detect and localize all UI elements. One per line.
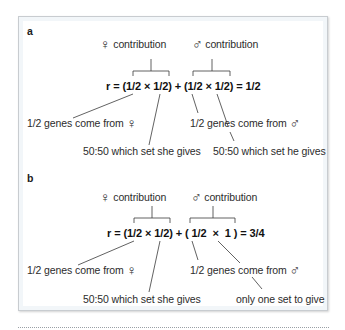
panel-b-female-genes: 1/2 genes come from ♀ [27, 264, 137, 276]
panel-a-female-genes: 1/2 genes come from ♀ [27, 117, 137, 129]
male-symbol-icon: ♂ [191, 189, 201, 205]
panel-b-male-genes: 1/2 genes come from ♂ [190, 264, 300, 276]
panel-b-male-set: only one set to give [236, 293, 324, 305]
female-genes-label: 1/2 genes come from [27, 264, 124, 276]
panel-b-female-set: 50:50 which set she gives [83, 293, 201, 305]
female-contribution-label: contribution [113, 38, 166, 50]
panel-a-male-set: 50:50 which set he gives [213, 145, 326, 157]
panel-a-female-contribution: ♀ contribution [100, 38, 166, 50]
panel-a-female-set: 50:50 which set she gives [83, 145, 201, 157]
dotted-divider [18, 327, 329, 328]
female-symbol-icon: ♀ [100, 189, 110, 205]
male-symbol-icon: ♂ [290, 115, 300, 131]
male-symbol-icon: ♂ [290, 262, 300, 278]
panel-b-female-contribution: ♀ contribution [100, 191, 166, 203]
panel-b-equation: r = (1/2 × 1/2) + ( 1/2 × 1 ) = 3/4 [107, 227, 264, 240]
panel-b-male-contribution: ♂ contribution [191, 191, 257, 203]
female-genes-label: 1/2 genes come from [27, 117, 124, 129]
panel-a-male-contribution: ♂ contribution [192, 38, 258, 50]
female-symbol-icon: ♀ [127, 262, 137, 278]
panel-b-label: b [27, 172, 33, 184]
male-genes-label: 1/2 genes come from [190, 117, 287, 129]
female-contribution-label: contribution [113, 191, 166, 203]
panel-a-male-genes: 1/2 genes come from ♂ [190, 117, 300, 129]
male-contribution-label: contribution [204, 191, 257, 203]
female-symbol-icon: ♀ [127, 115, 137, 131]
male-symbol-icon: ♂ [192, 36, 202, 52]
female-symbol-icon: ♀ [100, 36, 110, 52]
panel-a-label: a [27, 25, 33, 37]
panel-a-equation: r = (1/2 × 1/2) + (1/2 × 1/2) = 1/2 [106, 80, 261, 93]
male-contribution-label: contribution [205, 38, 258, 50]
male-genes-label: 1/2 genes come from [190, 264, 287, 276]
